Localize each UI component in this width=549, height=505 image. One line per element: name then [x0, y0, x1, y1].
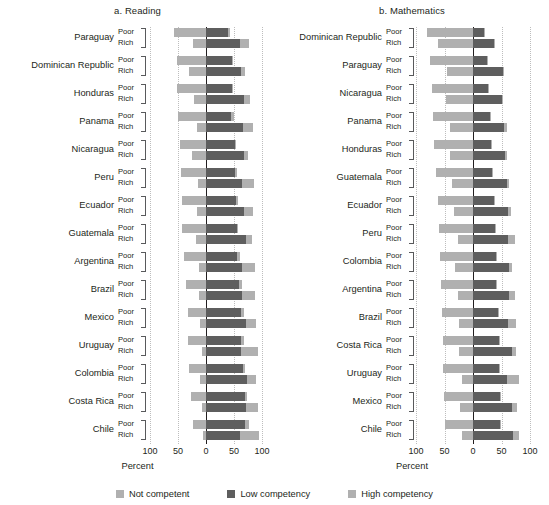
- group-label-poor: Poor: [118, 167, 140, 177]
- bar-segment-not-competent: [188, 308, 206, 317]
- group-labels: PoorRich: [386, 111, 408, 132]
- group-labels: PoorRich: [118, 391, 140, 412]
- bar-segment-low-competency: [206, 403, 246, 412]
- country-group: Dominican RepublicPoorRich: [275, 28, 408, 48]
- x-tick-label: 0: [470, 446, 475, 456]
- country-group: MexicoPoorRich: [0, 308, 140, 328]
- bar-segment-low-competency: [206, 56, 232, 65]
- group-labels: PoorRich: [386, 83, 408, 104]
- bar-segment-not-competent: [191, 392, 206, 401]
- group-bracket: [409, 28, 414, 48]
- group-bracket: [409, 224, 414, 244]
- gridline: [262, 27, 264, 444]
- country-group: UruguayPoorRich: [275, 364, 408, 384]
- group-label-poor: Poor: [118, 363, 140, 373]
- bar-segment-low-competency: [473, 431, 513, 440]
- group-bracket: [141, 112, 146, 132]
- group-label-poor: Poor: [118, 111, 140, 121]
- panel-mathematics: b. MathematicsDominican RepublicPoorRich…: [275, 0, 549, 470]
- country-group: GuatemalaPoorRich: [0, 224, 140, 244]
- group-label-poor: Poor: [118, 27, 140, 37]
- bar-segment-high-competency: [232, 56, 233, 65]
- bar-segment-low-competency: [473, 392, 500, 401]
- legend-item[interactable]: High competency: [348, 489, 433, 499]
- bar-row: [145, 403, 262, 412]
- country-label: Chile: [361, 425, 386, 434]
- country-group: ChilePoorRich: [0, 420, 140, 440]
- bar-row: [413, 308, 530, 317]
- bar-row: [413, 420, 530, 429]
- bar-segment-not-competent: [188, 336, 206, 345]
- bar-row: [145, 375, 262, 384]
- x-tick-label: 50: [439, 446, 449, 456]
- bar-segment-not-competent: [198, 179, 206, 188]
- bar-row: [413, 224, 530, 233]
- group-label-rich: Rich: [386, 346, 408, 356]
- group-label-poor: Poor: [118, 55, 140, 65]
- bar-segment-high-competency: [244, 95, 250, 104]
- group-label-rich: Rich: [118, 94, 140, 104]
- country-label: Dominican Republic: [299, 33, 386, 42]
- bar-segment-not-competent: [193, 39, 206, 48]
- group-labels: PoorRich: [386, 27, 408, 48]
- bar-segment-high-competency: [508, 319, 515, 328]
- x-tick-label: 0: [203, 446, 208, 456]
- bar-segment-low-competency: [206, 252, 237, 261]
- bar-segment-high-competency: [237, 252, 240, 261]
- gridline: [530, 27, 532, 444]
- bar-row: [413, 140, 530, 149]
- legend-swatch-icon: [227, 490, 235, 498]
- bar-segment-low-competency: [473, 291, 509, 300]
- bar-segment-low-competency: [473, 235, 508, 244]
- group-labels: PoorRich: [118, 279, 140, 300]
- group-bracket: [409, 280, 414, 300]
- bar-segment-not-competent: [444, 392, 473, 401]
- bar-segment-not-competent: [443, 336, 473, 345]
- bar-segment-high-competency: [231, 112, 234, 121]
- country-group: Costa RicaPoorRich: [0, 392, 140, 412]
- country-group: HondurasPoorRich: [275, 140, 408, 160]
- x-axis-mathematics: 10050050100: [399, 446, 544, 462]
- country-group: ParaguayPoorRich: [0, 28, 140, 48]
- bar-segment-not-competent: [438, 196, 473, 205]
- country-group: PanamaPoorRich: [0, 112, 140, 132]
- legend-item[interactable]: Not competent: [116, 489, 189, 499]
- group-label-poor: Poor: [118, 391, 140, 401]
- bar-segment-low-competency: [206, 392, 245, 401]
- country-label: Mexico: [85, 313, 118, 322]
- group-labels: PoorRich: [118, 419, 140, 440]
- country-label: Peru: [94, 173, 118, 182]
- bar-segment-high-competency: [507, 179, 509, 188]
- group-label-poor: Poor: [386, 83, 408, 93]
- country-group: BrazilPoorRich: [0, 280, 140, 300]
- bar-segment-high-competency: [494, 39, 495, 48]
- plot-area-reading: [145, 27, 262, 444]
- group-labels: PoorRich: [386, 55, 408, 76]
- bar-segment-low-competency: [206, 123, 243, 132]
- bar-segment-not-competent: [445, 420, 474, 429]
- group-bracket: [409, 112, 414, 132]
- bar-segment-not-competent: [182, 224, 206, 233]
- bar-segment-high-competency: [505, 151, 507, 160]
- bar-segment-low-competency: [473, 336, 499, 345]
- group-label-poor: Poor: [386, 195, 408, 205]
- bar-row: [145, 123, 262, 132]
- group-label-rich: Rich: [118, 290, 140, 300]
- group-bracket: [409, 392, 414, 412]
- bar-segment-not-competent: [181, 168, 206, 177]
- bar-segment-low-competency: [206, 280, 239, 289]
- country-group: BrazilPoorRich: [275, 308, 408, 328]
- group-bracket: [141, 252, 146, 272]
- country-label: Argentina: [74, 257, 118, 266]
- bar-row: [145, 39, 262, 48]
- x-tick-label: 100: [408, 446, 423, 456]
- bar-row: [413, 364, 530, 373]
- country-group: EcuadorPoorRich: [0, 196, 140, 216]
- legend-item[interactable]: Low competency: [227, 489, 310, 499]
- group-label-rich: Rich: [386, 66, 408, 76]
- bar-segment-low-competency: [473, 403, 512, 412]
- country-label: Ecuador: [79, 201, 118, 210]
- bar-segment-high-competency: [244, 207, 253, 216]
- chart-legend: Not competentLow competencyHigh competen…: [0, 489, 549, 499]
- group-bracket: [141, 168, 146, 188]
